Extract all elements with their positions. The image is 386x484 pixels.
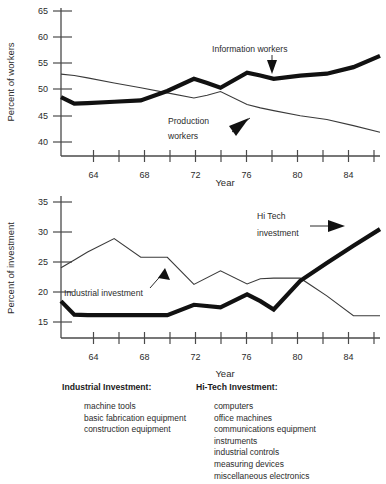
legend-item: construction equipment <box>84 424 186 436</box>
y-tick-labels: 65 60 55 50 45 40 <box>38 6 48 147</box>
legend-item-list: computers office machines communications… <box>196 401 316 482</box>
x-tick-label: 72 <box>190 170 200 180</box>
legend-item: miscellaneous electronics <box>214 471 316 483</box>
annotation-information-workers-label: Information workers <box>212 44 287 54</box>
x-tick-label: 64 <box>88 170 98 180</box>
y-tick-label: 25 <box>38 257 48 267</box>
y-tick-label: 55 <box>38 58 48 68</box>
x-tick-label: 84 <box>343 170 353 180</box>
annotation-hi-tech-investment-pointer <box>310 220 345 232</box>
annotation-production-workers-line1: Production <box>168 116 209 126</box>
x-axis-title: Year <box>215 368 234 379</box>
legend: Industrial Investment: machine tools bas… <box>0 382 386 484</box>
x-tick-label: 76 <box>241 352 251 362</box>
x-tick-label: 84 <box>343 352 353 362</box>
y-ticks <box>53 11 72 142</box>
x-tick-labels: 64 68 72 76 80 84 <box>88 352 353 362</box>
x-tick-label: 76 <box>241 170 251 180</box>
legend-item-list: machine tools basic fabrication equipmen… <box>62 401 186 436</box>
y-tick-label: 45 <box>38 111 48 121</box>
y-axis-title: Percent of workers <box>5 42 16 121</box>
legend-item: office machines <box>214 413 316 425</box>
series-hi-tech-investment <box>61 229 380 315</box>
series-industrial-investment <box>61 239 380 316</box>
legend-heading: Hi-Tech Investment: <box>196 382 316 392</box>
legend-item: machine tools <box>84 401 186 413</box>
x-tick-label: 64 <box>88 352 98 362</box>
y-axis-title: Percent of investment <box>5 222 16 314</box>
x-tick-label: 80 <box>292 170 302 180</box>
x-tick-label: 68 <box>139 352 149 362</box>
figure-container: 65 60 55 50 45 40 64 68 72 76 <box>0 0 386 484</box>
y-tick-label: 30 <box>38 227 48 237</box>
x-axis-title: Year <box>215 177 234 186</box>
annotation-hi-tech-investment-line1: Hi Tech <box>257 211 286 221</box>
legend-column-hi-tech-investment: Hi-Tech Investment: computers office mac… <box>196 382 316 482</box>
y-tick-label: 15 <box>38 317 48 327</box>
legend-item: measuring devices <box>214 459 316 471</box>
y-tick-label: 20 <box>38 287 48 297</box>
annotation-industrial-investment-label: Industrial investment <box>64 288 143 298</box>
y-tick-label: 65 <box>38 6 48 16</box>
y-tick-labels: 35 30 25 20 15 <box>38 197 48 327</box>
legend-item: communications equipment <box>214 424 316 436</box>
chart-investment: 35 30 25 20 15 64 68 72 76 80 84 <box>0 190 386 382</box>
annotation-production-workers-line2: workers <box>167 131 198 141</box>
legend-item: basic fabrication equipment <box>84 413 186 425</box>
x-tick-label: 72 <box>190 352 200 362</box>
y-tick-label: 35 <box>38 197 48 207</box>
annotation-production-workers-pointer <box>229 118 250 136</box>
series-information-workers <box>61 56 380 104</box>
legend-item: industrial controls <box>214 447 316 459</box>
x-tick-label: 80 <box>292 352 302 362</box>
legend-heading: Industrial Investment: <box>62 382 186 392</box>
legend-column-industrial-investment: Industrial Investment: machine tools bas… <box>62 382 186 436</box>
legend-item: instruments <box>214 436 316 448</box>
legend-item: computers <box>214 401 316 413</box>
y-tick-label: 50 <box>38 84 48 94</box>
annotation-industrial-investment-pointer <box>150 268 170 288</box>
chart-workers: 65 60 55 50 45 40 64 68 72 76 <box>0 0 386 186</box>
y-tick-label: 60 <box>38 32 48 42</box>
x-tick-label: 68 <box>139 170 149 180</box>
annotation-information-workers-pointer <box>267 55 277 74</box>
y-tick-label: 40 <box>38 137 48 147</box>
annotation-hi-tech-investment-line2: investment <box>257 228 299 238</box>
